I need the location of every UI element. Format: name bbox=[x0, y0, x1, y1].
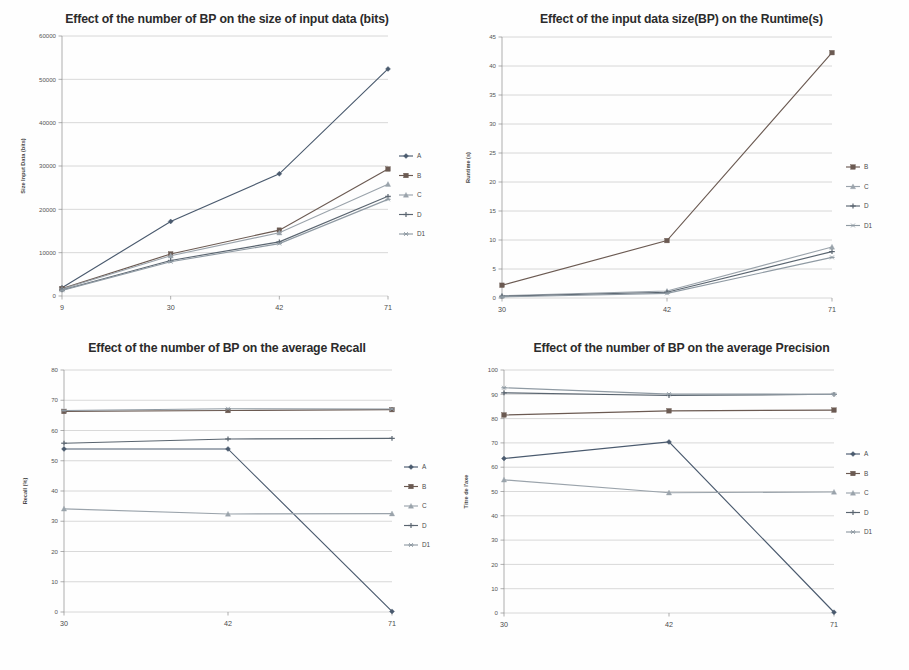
y-tick-label: 0 bbox=[55, 608, 59, 615]
plot-input-data-size: 0100002000030000400005000060000Size Inpu… bbox=[0, 28, 454, 328]
data-point-A bbox=[168, 219, 173, 224]
legend-item-B[interactable]: B bbox=[404, 483, 426, 490]
chart-figure-grid: Effect of the number of BP on the size o… bbox=[0, 0, 909, 670]
legend-item-D[interactable]: D bbox=[399, 211, 422, 218]
legend-label-D: D bbox=[417, 211, 422, 218]
y-tick-label: 35 bbox=[489, 91, 496, 98]
y-tick-label: 10 bbox=[491, 585, 498, 592]
legend-item-D1[interactable]: D1 bbox=[399, 230, 426, 237]
series-line-A bbox=[64, 449, 392, 611]
legend-item-B[interactable]: B bbox=[399, 172, 421, 179]
chart-title-average-recall: Effect of the number of BP on the averag… bbox=[0, 341, 454, 355]
legend-label-A: A bbox=[417, 152, 422, 159]
y-tick-label: 20 bbox=[489, 178, 496, 185]
chart-title-average-precision: Effect of the number of BP on the averag… bbox=[454, 341, 909, 355]
legend-label-B: B bbox=[417, 172, 421, 179]
data-point-A bbox=[62, 446, 67, 451]
legend-label-B: B bbox=[422, 483, 426, 490]
x-tick-label: 9 bbox=[60, 303, 64, 312]
legend-label-D1: D1 bbox=[864, 528, 873, 535]
y-tick-label: 5 bbox=[493, 265, 497, 272]
y-tick-label: 50000 bbox=[39, 76, 57, 83]
legend-label-B: B bbox=[864, 470, 868, 477]
y-tick-label: 25 bbox=[489, 149, 496, 156]
series-line-A bbox=[504, 442, 834, 612]
y-tick-label: 60 bbox=[51, 427, 58, 434]
legend-item-D[interactable]: D bbox=[404, 522, 427, 529]
y-tick-label: 30 bbox=[489, 120, 496, 127]
data-point-B bbox=[667, 409, 672, 414]
data-point-B bbox=[386, 167, 391, 172]
legend-label-D: D bbox=[864, 202, 869, 209]
y-tick-label: 80 bbox=[51, 366, 58, 373]
data-point-C bbox=[829, 244, 834, 249]
x-tick-label: 71 bbox=[388, 619, 396, 628]
legend-item-C[interactable]: C bbox=[399, 191, 422, 198]
x-tick-label: 71 bbox=[828, 305, 836, 314]
y-tick-label: 40 bbox=[491, 512, 498, 519]
legend-label-A: A bbox=[422, 463, 427, 470]
data-point-D bbox=[389, 436, 395, 441]
chart-title-input-data-size: Effect of the number of BP on the size o… bbox=[0, 12, 454, 26]
series-line-B bbox=[502, 53, 832, 286]
legend-item-A[interactable]: A bbox=[404, 463, 427, 470]
data-point-D bbox=[61, 441, 67, 446]
legend-label-D1: D1 bbox=[864, 222, 873, 229]
plot-runtime: 051015202530354045Runtime (s)304271BCDD1 bbox=[454, 28, 909, 328]
y-tick-label: 30 bbox=[51, 517, 58, 524]
x-tick-label: 30 bbox=[167, 303, 175, 312]
legend-item-D[interactable]: D bbox=[846, 509, 869, 516]
legend-label-C: C bbox=[422, 502, 427, 509]
y-tick-label: 0 bbox=[495, 609, 499, 616]
legend-item-D1[interactable]: D1 bbox=[846, 222, 873, 229]
legend-item-B[interactable]: B bbox=[846, 470, 868, 477]
legend-item-C[interactable]: C bbox=[846, 183, 869, 190]
panel-input-data-size: Effect of the number of BP on the size o… bbox=[0, 0, 454, 335]
series-line-B bbox=[62, 169, 388, 289]
y-tick-label: 40000 bbox=[39, 119, 57, 126]
legend-label-C: C bbox=[864, 489, 869, 496]
legend-item-D[interactable]: D bbox=[846, 202, 869, 209]
data-point-B bbox=[830, 50, 835, 55]
y-tick-label: 60000 bbox=[39, 32, 57, 39]
y-tick-label: 10 bbox=[489, 236, 496, 243]
x-tick-label: 30 bbox=[60, 619, 68, 628]
legend-item-A[interactable]: A bbox=[399, 152, 422, 159]
svg-chart-input-data-size: 0100002000030000400005000060000Size Inpu… bbox=[0, 28, 454, 328]
y-axis-title: Size Input Data (bits) bbox=[20, 138, 26, 193]
legend-item-D1[interactable]: D1 bbox=[846, 528, 873, 535]
y-tick-label: 60 bbox=[491, 463, 498, 470]
y-tick-label: 70 bbox=[491, 439, 498, 446]
data-point-A bbox=[502, 456, 507, 461]
panel-average-recall: Effect of the number of BP on the averag… bbox=[0, 335, 454, 670]
y-tick-label: 30 bbox=[491, 536, 498, 543]
data-point-B bbox=[832, 408, 837, 413]
series-line-D bbox=[62, 196, 388, 290]
data-point-D bbox=[225, 437, 231, 442]
legend-label-C: C bbox=[864, 183, 869, 190]
legend-item-C[interactable]: C bbox=[846, 489, 869, 496]
y-tick-label: 20000 bbox=[39, 206, 57, 213]
y-tick-label: 20 bbox=[491, 561, 498, 568]
data-point-B bbox=[62, 409, 67, 414]
y-tick-label: 40 bbox=[489, 62, 496, 69]
plot-average-precision: 0102030405060708090100Titre de l'axe3042… bbox=[454, 357, 909, 657]
legend-label-B: B bbox=[864, 163, 868, 170]
x-tick-label: 71 bbox=[830, 620, 838, 629]
legend-item-B[interactable]: B bbox=[846, 163, 868, 170]
legend-item-C[interactable]: C bbox=[404, 502, 427, 509]
panel-average-precision: Effect of the number of BP on the averag… bbox=[454, 335, 909, 670]
y-axis-title: Recall (%) bbox=[22, 477, 28, 504]
y-tick-label: 30000 bbox=[39, 162, 57, 169]
y-tick-label: 80 bbox=[491, 415, 498, 422]
legend-item-D1[interactable]: D1 bbox=[404, 541, 431, 548]
x-tick-label: 71 bbox=[384, 303, 392, 312]
y-tick-label: 0 bbox=[53, 292, 57, 299]
y-tick-label: 100 bbox=[488, 366, 499, 373]
y-tick-label: 10 bbox=[51, 578, 58, 585]
chart-title-runtime: Effect of the input data size(BP) on the… bbox=[454, 12, 909, 26]
plot-average-recall: 01020304050607080Recall (%)304271ABCDD1 bbox=[0, 357, 454, 657]
svg-chart-average-precision: 0102030405060708090100Titre de l'axe3042… bbox=[454, 357, 909, 657]
legend-item-A[interactable]: A bbox=[846, 450, 869, 457]
y-tick-label: 50 bbox=[51, 457, 58, 464]
